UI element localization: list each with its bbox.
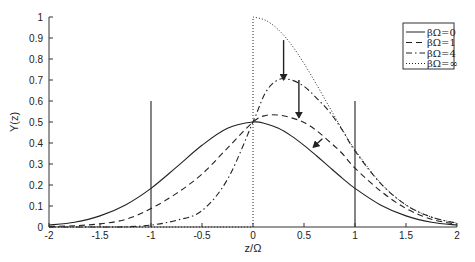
- series-dashed-line: [49, 115, 457, 227]
- x-tick-label: -2: [45, 230, 54, 241]
- y-tick-label: 0.5: [29, 117, 43, 128]
- x-tick-label: 0: [250, 230, 256, 241]
- legend-label: βΩ=4: [427, 48, 456, 59]
- y-tick-label: 0.2: [29, 180, 43, 191]
- y-tick-label: 0.1: [29, 201, 43, 212]
- x-tick-label: -1.5: [91, 230, 109, 241]
- x-axis-title: z/Ω: [245, 242, 262, 254]
- x-tick-label: 2: [454, 230, 460, 241]
- y-tick-label: 0.9: [29, 33, 43, 44]
- x-tick-label: 1: [352, 230, 358, 241]
- x-tick-label: -0.5: [193, 230, 211, 241]
- legend: βΩ=0βΩ=1βΩ=4βΩ=∞: [403, 23, 458, 69]
- arrow-annotation: [313, 139, 322, 147]
- plot-area: [49, 17, 457, 227]
- y-tick-label: 0.4: [29, 138, 43, 149]
- x-tick-label: -1: [147, 230, 156, 241]
- x-tick-label: 1.5: [399, 230, 413, 241]
- y-tick-label: 0: [37, 222, 43, 233]
- legend-label: βΩ=∞: [427, 58, 458, 69]
- y-tick-label: 0.8: [29, 54, 43, 65]
- x-tick-label: 0.5: [297, 230, 311, 241]
- axes: -2-1.5-1-0.500.511.5200.10.20.30.40.50.6…: [29, 12, 460, 242]
- y-tick-label: 1: [37, 12, 43, 23]
- y-tick-label: 0.7: [29, 75, 43, 86]
- y-tick-label: 0.6: [29, 96, 43, 107]
- chart: -2-1.5-1-0.500.511.5200.10.20.30.40.50.6…: [0, 0, 475, 262]
- y-tick-label: 0.3: [29, 159, 43, 170]
- series-solid-line: [49, 122, 457, 225]
- legend-label: βΩ=0: [427, 27, 456, 38]
- series-dotted-line: [49, 17, 457, 227]
- y-axis-title: Y(z): [8, 112, 20, 132]
- legend-label: βΩ=1: [427, 37, 456, 48]
